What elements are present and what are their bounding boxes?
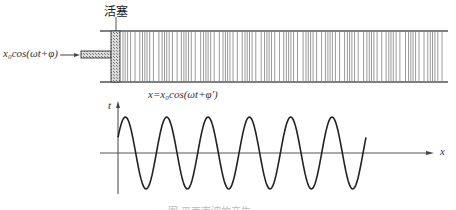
piston-label: 活塞: [104, 2, 128, 19]
input-arrow: [60, 53, 80, 57]
axis-t-label: t: [108, 99, 111, 111]
sound-wave-stripes: [123, 32, 442, 81]
wave-equation-label: x=x₀cos(ωt+φ′): [148, 88, 218, 100]
figure-caption: 图 平面声波的产生: [168, 203, 251, 210]
axis-x-label: x: [440, 145, 445, 157]
diagram-canvas: [0, 0, 456, 210]
piston: [111, 31, 120, 82]
input-displacement-label: x₀cos(ωt+φ): [3, 47, 58, 59]
piston-rod: [81, 51, 111, 58]
